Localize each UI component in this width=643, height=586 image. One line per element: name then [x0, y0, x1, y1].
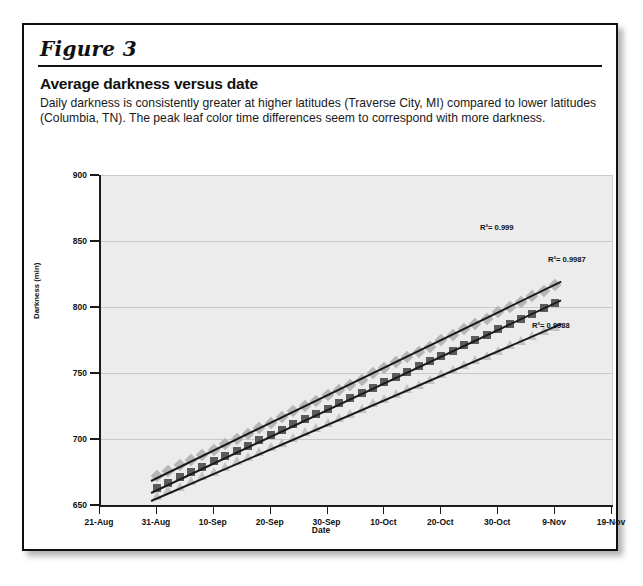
x-axis-tick: [440, 507, 441, 514]
gridline: [100, 241, 612, 242]
y-axis-tick: [90, 372, 99, 374]
y-axis-tick-label: 650: [73, 500, 87, 510]
x-axis-tick: [554, 507, 555, 514]
y-axis-tick: [90, 174, 99, 176]
figure-frame: Figure 3 Average darkness versus date Da…: [22, 23, 618, 551]
gridline: [100, 175, 612, 176]
gridline: [100, 307, 612, 308]
y-axis-tick: [90, 240, 99, 242]
r2-label: R²= 0.9988: [532, 321, 570, 330]
figure-divider: [38, 65, 602, 67]
plot-area: R²= 0.999R²= 0.9987R²= 0.9988: [100, 175, 613, 505]
gridline: [100, 439, 612, 440]
chart: Darkness (min) R²= 0.999R²= 0.9987R²= 0.…: [38, 169, 604, 541]
gridline: [100, 373, 612, 374]
r2-label: R²= 0.9987: [548, 255, 586, 264]
x-axis-tick: [213, 507, 214, 514]
trendline: [151, 299, 562, 493]
figure-number-label: Figure 3: [40, 37, 602, 61]
x-axis-tick: [156, 507, 157, 514]
y-axis-tick-label: 850: [73, 236, 87, 246]
y-axis-tick-label: 700: [73, 434, 87, 444]
y-axis-line: [99, 175, 101, 506]
figure-screenshot: Figure 3 Average darkness versus date Da…: [0, 0, 643, 586]
y-axis-tick: [90, 306, 99, 308]
x-axis-ticks: 21-Aug31-Aug10-Sep20-Sep30-Sep10-Oct20-O…: [99, 507, 613, 541]
x-axis-tick: [99, 507, 100, 514]
figure-inner: Figure 3 Average darkness versus date Da…: [24, 25, 616, 549]
x-axis-tick: [270, 507, 271, 514]
y-axis-tick-label: 900: [73, 170, 87, 180]
r2-label: R²= 0.999: [480, 223, 514, 232]
y-axis-ticks: 650700750800850900: [38, 175, 99, 506]
figure-description: Daily darkness is consistently greater a…: [40, 96, 600, 127]
x-axis-title: Date: [38, 525, 604, 535]
trendline: [151, 323, 562, 501]
x-axis-tick: [497, 507, 498, 514]
y-axis-tick: [90, 438, 99, 440]
y-axis-tick-label: 800: [73, 302, 87, 312]
x-axis-tick: [611, 507, 612, 514]
x-axis-tick: [383, 507, 384, 514]
y-axis-tick-label: 750: [73, 368, 87, 378]
x-axis-tick: [327, 507, 328, 514]
figure-title: Average darkness versus date: [40, 75, 602, 93]
trendline: [151, 281, 562, 482]
y-axis-tick: [90, 504, 99, 506]
